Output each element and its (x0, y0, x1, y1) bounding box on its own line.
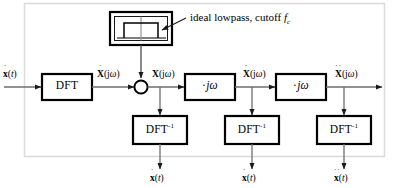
out1-accent: ˙ (150, 169, 155, 177)
signal-label-input: ˙x(t) (3, 70, 17, 80)
signal-label-output-3: ˙˙x(t) (334, 174, 348, 184)
idft1-block-label: DFT-1 (140, 123, 180, 135)
idft2-base: DFT (238, 123, 260, 135)
after-mult1-close: ) (262, 69, 265, 79)
idft2-exponent: -1 (260, 122, 266, 130)
signal-label-after-dft: ˙X(jω) (97, 70, 120, 80)
signal-label-output-2: ˙x(t) (242, 174, 256, 184)
junction-circle (134, 80, 147, 93)
out2-accent: ˙ (242, 169, 247, 177)
idft3-exponent: -1 (352, 122, 358, 130)
out3-accent: ˙˙ (334, 169, 339, 177)
out3-close: ) (345, 173, 348, 183)
input-accent: ˙ (3, 65, 8, 73)
lowpass-annotation-text: ideal lowpass, cutoff (190, 11, 284, 23)
idft2-block-label: DFT-1 (232, 123, 272, 135)
diagram-canvas: ideal lowpass, cutoff fc DFT ·jω ·jω DFT… (0, 0, 393, 188)
mult2-block-label: ·jω (286, 80, 316, 92)
after-dft-close: ) (116, 69, 119, 79)
mult1-block-label: ·jω (195, 80, 225, 92)
signal-label-after-mult1: ˙X(jω) (243, 70, 266, 80)
mult1-omega: ω (210, 79, 218, 91)
idft1-base: DFT (146, 123, 168, 135)
lowpass-filter-box (110, 12, 172, 45)
idft3-base: DFT (330, 123, 352, 135)
idft1-exponent: -1 (168, 122, 174, 130)
signal-label-output-1: ˙x(t) (150, 174, 164, 184)
after-mult2-close: ) (354, 69, 357, 79)
signal-label-after-filter: X(jω) (152, 70, 175, 80)
cutoff-subscript: c (287, 18, 290, 26)
signal-label-after-mult2: ˙˙X(jω) (335, 70, 358, 80)
after-filter-close: ) (171, 69, 174, 79)
input-close: ) (14, 69, 17, 79)
idft3-block-label: DFT-1 (324, 123, 364, 135)
after-mult2-accent: ˙˙ (335, 65, 342, 73)
dft-block-label: DFT (52, 80, 82, 92)
out1-close: ) (161, 173, 164, 183)
mult2-omega: ω (301, 79, 309, 91)
lowpass-annotation: ideal lowpass, cutoff fc (190, 12, 290, 26)
after-mult1-accent: ˙ (243, 65, 250, 73)
diagram-graphics (0, 0, 393, 188)
after-dft-accent: ˙ (97, 65, 104, 73)
out2-close: ) (253, 173, 256, 183)
after-filter-symbol: X (152, 70, 159, 80)
